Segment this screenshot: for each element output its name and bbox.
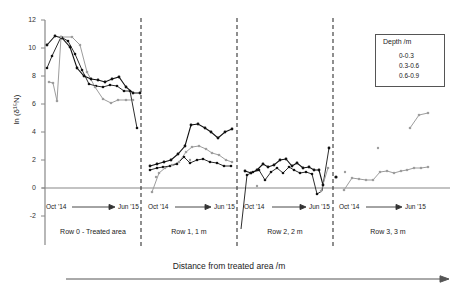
x-axis-title: Distance from treated area /m	[0, 261, 458, 271]
y-axis-title: ln (δ¹⁵N)	[12, 80, 21, 140]
period-end-row1: Jun '15	[214, 203, 235, 210]
legend-title: Depth /m	[383, 38, 411, 45]
panel-row3-series	[343, 112, 430, 192]
period-end-row3: Jun '15	[405, 203, 426, 210]
y-tick-2: 2	[22, 156, 36, 163]
panel-label-row0: Row 0 - Treated area	[45, 228, 141, 235]
period-end-row0: Jun '15	[118, 203, 139, 210]
chart-figure: 12 10 8 6 4 2 0 -2 ln (δ¹⁵N) Distance fr…	[0, 0, 458, 291]
y-tick-12: 12	[22, 16, 36, 23]
panel-row0-series	[46, 35, 142, 130]
legend-item-03-06: 0.3-0.6	[399, 62, 419, 69]
series-06-09-row1	[152, 146, 232, 192]
y-tick-6: 6	[22, 100, 36, 107]
panel-label-row1: Row 1, 1 m	[141, 228, 237, 235]
panel-row1-series	[149, 123, 234, 194]
series-06-09-row0	[49, 37, 133, 103]
y-tick-neg2: -2	[22, 212, 36, 219]
period-end-row2: Jun '15	[309, 203, 330, 210]
legend-item-06-09: 0.6-0.9	[399, 72, 419, 79]
distance-arrow	[66, 276, 449, 282]
y-tick-0: 0	[22, 184, 36, 191]
panel-label-row3: Row 3, 3 m	[333, 228, 443, 235]
y-tick-10: 10	[22, 44, 36, 51]
panel-dividers	[141, 18, 333, 248]
period-start-row1: Oct '14	[148, 203, 168, 210]
panel-label-row2: Row 2, 2 m	[237, 228, 333, 235]
row3-markers-gray	[343, 112, 430, 192]
period-start-row0: Oct '14	[46, 203, 66, 210]
period-start-row3: Oct '14	[339, 203, 359, 210]
legend-item-0-03: 0-0.3	[399, 52, 414, 59]
period-start-row2: Oct '14	[244, 203, 264, 210]
y-tick-8: 8	[22, 72, 36, 79]
y-tick-4: 4	[22, 128, 36, 135]
